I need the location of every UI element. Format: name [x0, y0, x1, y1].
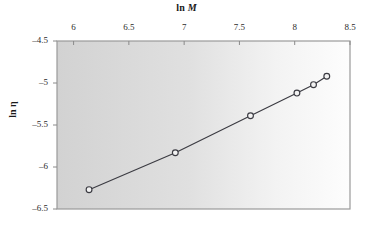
y-tick-label: –6.5	[18, 203, 48, 213]
data-point-marker	[311, 82, 317, 88]
plot-svg	[0, 0, 373, 227]
data-point-marker	[86, 187, 92, 193]
plot-background	[57, 41, 350, 209]
x-tick-label: 8	[280, 22, 310, 32]
data-point-marker	[294, 90, 300, 96]
x-tick-label: 7	[169, 22, 199, 32]
data-point-marker	[324, 73, 330, 79]
chart-figure: ln M ln η 66.577.588.5–4.5–5–5.5–6–6.5	[0, 0, 373, 227]
y-tick-label: –5	[18, 77, 48, 87]
x-tick-label: 6	[59, 22, 89, 32]
data-point-marker	[172, 150, 178, 156]
y-tick-label: –5.5	[18, 119, 48, 129]
x-tick-label: 7.5	[224, 22, 254, 32]
y-tick-label: –4.5	[18, 35, 48, 45]
x-tick-label: 6.5	[114, 22, 144, 32]
data-point-marker	[248, 113, 254, 119]
y-tick-label: –6	[18, 161, 48, 171]
x-tick-label: 8.5	[335, 22, 365, 32]
